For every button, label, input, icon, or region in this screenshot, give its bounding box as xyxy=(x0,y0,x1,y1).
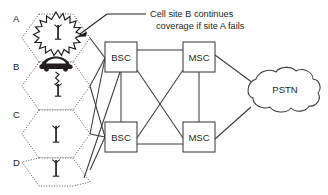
bsc1-label: BSC xyxy=(111,52,131,63)
link-cell-c-bsc2 xyxy=(90,134,105,137)
cell-label-c: C xyxy=(13,109,20,120)
node-msc2[interactable]: MSC xyxy=(183,122,215,152)
link-msc2-pstn xyxy=(215,107,251,139)
cell-label-d: D xyxy=(13,157,20,168)
link-cell-a-bsc1 xyxy=(90,38,105,58)
cell-hexagon-b xyxy=(22,62,90,110)
msc2-label: MSC xyxy=(188,132,209,143)
pstn-label: PSTN xyxy=(272,84,297,95)
diagram-canvas: A B C D xyxy=(0,0,328,195)
leader-line xyxy=(80,14,146,34)
node-bsc2[interactable]: BSC xyxy=(105,122,137,152)
node-bsc1[interactable]: BSC xyxy=(105,42,137,72)
msc-pstn-links xyxy=(215,55,253,139)
msc1-label: MSC xyxy=(188,52,209,63)
node-pstn[interactable]: PSTN xyxy=(248,67,320,112)
bsc2-label: BSC xyxy=(111,132,131,143)
annotation-line-1: Cell site B continues xyxy=(150,9,234,19)
link-msc1-pstn xyxy=(215,55,253,83)
cell-label-a: A xyxy=(13,13,20,24)
node-msc1[interactable]: MSC xyxy=(183,42,215,72)
cell-label-b: B xyxy=(13,61,19,72)
annotation-line-2: coverage if site A fails xyxy=(156,21,245,31)
annotation-leader xyxy=(76,14,146,37)
network-diagram: A B C D xyxy=(0,0,328,195)
